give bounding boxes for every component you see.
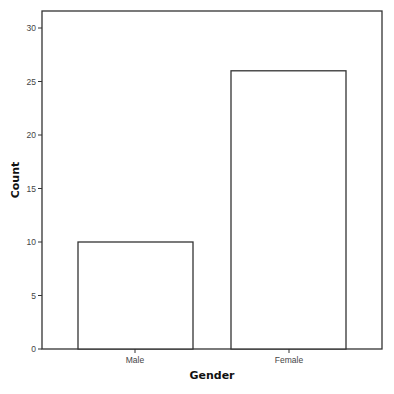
x-axis-title: Gender	[189, 369, 235, 382]
x-tick-label-male: Male	[126, 355, 145, 365]
bar-chart: 051015202530 MaleFemale Count Gender	[0, 0, 394, 394]
bars	[78, 71, 346, 349]
y-tick-label: 20	[27, 130, 37, 140]
y-tick-label: 30	[27, 23, 37, 33]
bar-female	[231, 71, 346, 349]
y-tick-label: 10	[27, 237, 37, 247]
x-tick-label-female: Female	[275, 355, 304, 365]
y-tick-label: 15	[27, 184, 37, 194]
y-tick-label: 0	[31, 344, 36, 354]
bar-male	[78, 242, 193, 349]
y-tick-label: 25	[27, 77, 37, 87]
x-axis: MaleFemale	[126, 349, 304, 365]
y-axis-title: Count	[9, 162, 22, 199]
y-axis: 051015202530	[27, 23, 42, 354]
y-tick-label: 5	[31, 291, 36, 301]
